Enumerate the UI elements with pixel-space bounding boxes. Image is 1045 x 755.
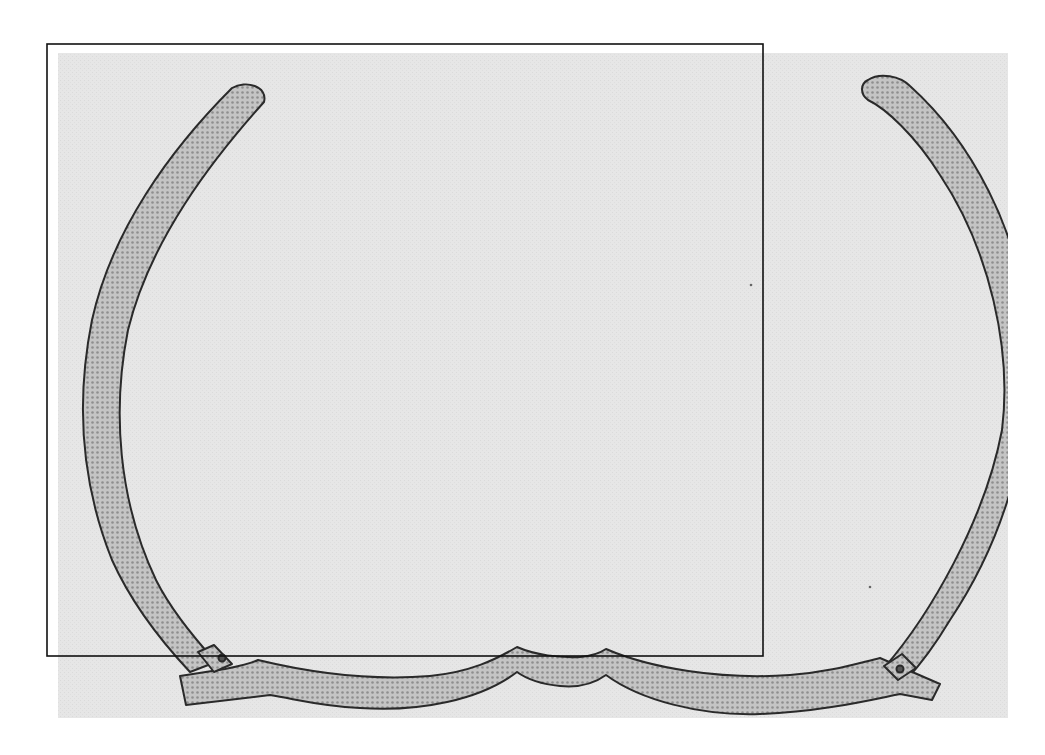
speck-mark <box>869 586 872 589</box>
figure-canvas <box>0 0 1045 755</box>
eyeglass-frame-figure: Scanned line drawing of an eyeglass fram… <box>0 0 1045 755</box>
speck-mark <box>750 284 753 287</box>
